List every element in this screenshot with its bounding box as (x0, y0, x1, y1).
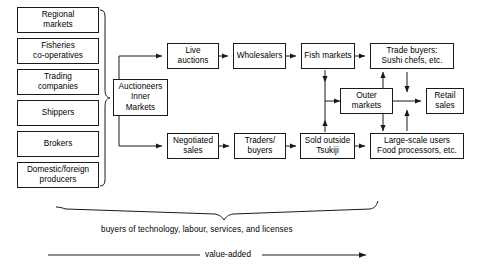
node-wholesalers[interactable]: Wholesalers (233, 43, 286, 69)
diagram-canvas: Regional markets Fisheries co-operatives… (0, 0, 477, 271)
node-brokers[interactable]: Brokers (17, 131, 99, 157)
node-shippers[interactable]: Shippers (17, 100, 99, 126)
node-outer-markets[interactable]: Outer markets (340, 88, 393, 114)
node-live-auctions[interactable]: Live auctions (167, 43, 219, 69)
node-negotiated-sales[interactable]: Negotiated sales (167, 133, 219, 159)
buyers-of-technology-note: buyers of technology, labour, services, … (101, 225, 293, 234)
node-regional-markets[interactable]: Regional markets (17, 7, 99, 33)
node-fisheries-cooperatives[interactable]: Fisheries co-operatives (17, 38, 99, 64)
node-fish-markets[interactable]: Fish markets (301, 43, 355, 69)
edge-hub-to-negotiated-sales (119, 113, 162, 146)
value-chain-brace (56, 201, 378, 220)
supplier-group-brace (100, 10, 110, 186)
node-large-scale-users[interactable]: Large-scale users Food processors, etc. (370, 133, 464, 159)
node-domestic-foreign-producers[interactable]: Domestic/foreign producers (17, 162, 99, 188)
node-retail-sales[interactable]: Retail sales (426, 88, 464, 114)
node-auctioneers-inner-markets[interactable]: Auctioneers Inner Markets (113, 79, 168, 116)
node-traders-buyers[interactable]: Traders/ buyers (234, 133, 286, 159)
node-sold-outside-tsukiji[interactable]: Sold outside Tsukiji (300, 133, 355, 159)
value-added-label: value-added (205, 250, 251, 259)
node-trade-buyers[interactable]: Trade buyers: Sushi chefs, etc. (370, 43, 454, 69)
node-trading-companies[interactable]: Trading companies (17, 69, 99, 95)
